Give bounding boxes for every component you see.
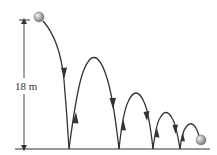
height-label: 18 m <box>15 80 38 92</box>
arc2-up-arrow-icon <box>121 120 127 131</box>
bouncing-ball-diagram: 18 m <box>0 0 217 155</box>
drop-trajectory <box>43 21 69 149</box>
arc1-down-arrow-icon <box>110 98 117 109</box>
drop-arrow-icon <box>61 68 67 79</box>
end-ball <box>196 135 206 145</box>
start-ball <box>34 12 44 22</box>
height-dimension: 18 m <box>15 20 38 148</box>
arc4-up-arrow-icon <box>181 133 186 142</box>
bounce-arc-2 <box>119 93 153 149</box>
